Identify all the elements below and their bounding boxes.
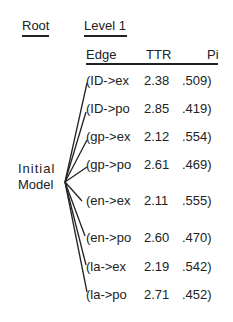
row-1-pi: .509) bbox=[182, 73, 212, 88]
row-3-ttr: 2.12 bbox=[144, 129, 169, 144]
row-3-pi: .554) bbox=[182, 129, 212, 144]
row-4-ttr: 2.61 bbox=[144, 157, 169, 172]
row-2-edge: (ID->po bbox=[86, 101, 130, 116]
edge-line-6 bbox=[65, 182, 85, 236]
row-3-edge: (gp->ex bbox=[86, 129, 130, 144]
row-6-pi: .470) bbox=[182, 230, 212, 245]
row-4-edge: (gp->po bbox=[86, 157, 131, 172]
row-5-ttr: 2.11 bbox=[144, 193, 168, 208]
row-8-pi: .452) bbox=[182, 287, 212, 302]
row-6-ttr: 2.60 bbox=[144, 230, 169, 245]
row-7-pi: .542) bbox=[182, 259, 212, 274]
row-8-ttr: 2.71 bbox=[144, 287, 169, 302]
edge-line-8 bbox=[65, 182, 87, 292]
row-5-pi: .555) bbox=[182, 193, 212, 208]
row-2-ttr: 2.85 bbox=[144, 101, 169, 116]
edge-line-1 bbox=[65, 83, 87, 182]
row-8-edge: (la->po bbox=[86, 287, 127, 302]
row-5-edge: (en->ex bbox=[86, 193, 130, 208]
row-7-edge: (la->ex bbox=[86, 259, 126, 274]
row-1-edge: (ID->ex bbox=[86, 73, 129, 88]
row-1-ttr: 2.38 bbox=[144, 73, 169, 88]
row-6-edge: (en->po bbox=[86, 230, 131, 245]
row-4-pi: .469) bbox=[182, 157, 212, 172]
row-7-ttr: 2.19 bbox=[144, 259, 169, 274]
row-2-pi: .419) bbox=[182, 101, 212, 116]
